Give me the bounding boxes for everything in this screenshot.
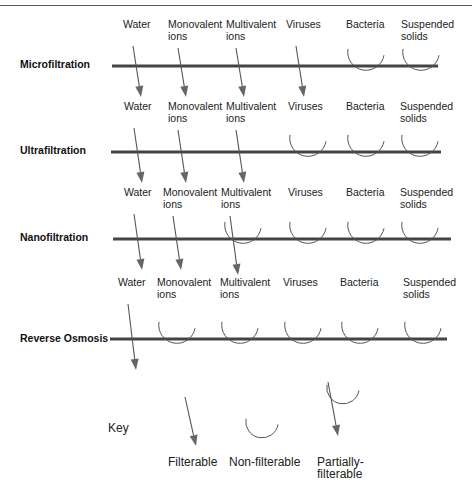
species-label: Bacteria	[346, 100, 385, 112]
key-item-label: Partially-filterable	[317, 455, 364, 481]
key-item-label: Filterable	[168, 455, 218, 469]
filterable-arrow-icon	[296, 46, 306, 97]
legend-key: KeyFilterableNon-filterablePartially-fil…	[108, 382, 364, 481]
process-label: Ultrafiltration	[20, 144, 86, 156]
species-label: Multivalentions	[226, 100, 276, 124]
species-label: Multivalentions	[226, 18, 276, 42]
species-label: Suspendedsolids	[400, 186, 453, 210]
species-label: Bacteria	[340, 276, 379, 288]
species-multivalent-ions: Multivalentions	[226, 100, 276, 183]
filterable-arrow-icon	[178, 130, 188, 183]
species-label: Multivalentions	[220, 276, 270, 300]
species-monovalent-ions: Monovalentions	[168, 100, 222, 183]
filterable-arrow-icon	[173, 216, 183, 270]
species-multivalent-ions: Multivalentions	[221, 186, 271, 275]
species-label: Viruses	[283, 276, 318, 288]
key-title: Key	[108, 421, 129, 435]
species-multivalent-ions: Multivalentions	[220, 276, 270, 343]
species-label: Suspendedsolids	[401, 18, 454, 42]
filterable-arrow-icon	[185, 397, 197, 446]
species-water: Water	[118, 276, 146, 370]
species-monovalent-ions: Monovalentions	[157, 276, 211, 343]
species-label: Multivalentions	[221, 186, 271, 210]
species-monovalent-ions: Monovalentions	[168, 18, 222, 97]
species-label: Water	[124, 186, 152, 198]
species-monovalent-ions: Monovalentions	[163, 186, 217, 270]
species-bacteria: Bacteria	[346, 18, 385, 70]
species-label: Viruses	[286, 18, 321, 30]
species-viruses: Viruses	[283, 276, 321, 343]
species-label: Suspendedsolids	[400, 100, 453, 124]
process-row-microfiltration: MicrofiltrationWaterMonovalentionsMultiv…	[20, 18, 454, 97]
process-label: Nanofiltration	[20, 231, 88, 243]
membrane-filtration-diagram: MicrofiltrationWaterMonovalentionsMultiv…	[0, 0, 472, 498]
key-item-partially-filterable: Partially-filterable	[317, 382, 364, 481]
key-item-filterable: Filterable	[168, 397, 218, 469]
species-label: Water	[118, 276, 146, 288]
species-label: Water	[123, 18, 151, 30]
species-multivalent-ions: Multivalentions	[226, 18, 276, 97]
species-water: Water	[123, 18, 151, 97]
filterable-arrow-icon	[128, 304, 139, 370]
process-row-ultrafiltration: UltrafiltrationWaterMonovalentionsMultiv…	[20, 100, 453, 183]
partial-arrow-icon	[230, 216, 240, 275]
species-label: Viruses	[288, 186, 323, 198]
species-label: Bacteria	[346, 186, 385, 198]
filterable-arrow-icon	[134, 128, 144, 183]
species-label: Monovalentions	[163, 186, 217, 210]
process-row-reverse-osmosis: Reverse OsmosisWaterMonovalentionsMultiv…	[20, 276, 456, 370]
species-label: Monovalentions	[157, 276, 211, 300]
species-suspended-solids: Suspendedsolids	[403, 276, 456, 343]
filterable-arrow-icon	[236, 130, 246, 183]
filterable-arrow-icon	[133, 46, 143, 97]
species-label: Water	[124, 100, 152, 112]
species-label: Bacteria	[346, 18, 385, 30]
species-suspended-solids: Suspendedsolids	[401, 18, 454, 70]
species-suspended-solids: Suspendedsolids	[400, 100, 453, 156]
species-suspended-solids: Suspendedsolids	[400, 186, 453, 243]
partial-arrow-icon	[328, 382, 340, 436]
species-label: Suspendedsolids	[403, 276, 456, 300]
filterable-arrow-icon	[236, 48, 246, 97]
species-viruses: Viruses	[288, 186, 326, 243]
species-label: Monovalentions	[168, 100, 222, 124]
key-item-non-filterable: Non-filterable	[229, 419, 301, 469]
filterable-arrow-icon	[134, 214, 144, 270]
species-water: Water	[124, 100, 152, 183]
process-label: Microfiltration	[20, 58, 90, 70]
species-water: Water	[124, 186, 152, 270]
species-bacteria: Bacteria	[346, 100, 385, 156]
species-label: Viruses	[288, 100, 323, 112]
species-viruses: Viruses	[288, 100, 326, 156]
filterable-arrow-icon	[178, 48, 188, 97]
key-item-label: Non-filterable	[229, 455, 301, 469]
non-filterable-arc-icon	[246, 419, 278, 438]
species-viruses: Viruses	[286, 18, 321, 97]
species-bacteria: Bacteria	[346, 186, 385, 243]
process-row-nanofiltration: NanofiltrationWaterMonovalentionsMultiva…	[20, 186, 453, 275]
species-label: Monovalentions	[168, 18, 222, 42]
species-bacteria: Bacteria	[340, 276, 379, 343]
process-label: Reverse Osmosis	[20, 332, 108, 344]
